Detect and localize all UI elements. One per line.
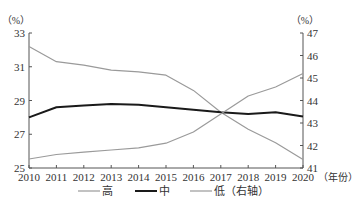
right-tick-label: 47 (307, 27, 319, 39)
x-tick-label: 2013 (100, 171, 123, 183)
legend-label: 高 (102, 184, 113, 197)
x-axis-label: （年份） (318, 171, 358, 183)
x-tick-label: 2014 (128, 171, 151, 183)
legend-label: 低（右轴） (214, 184, 269, 197)
axes (29, 33, 303, 168)
left-axis-unit: （%） (2, 15, 30, 26)
x-tick-label: 2016 (182, 171, 205, 183)
x-tick-label: 2020 (292, 171, 315, 183)
x-tick-label: 2015 (155, 171, 178, 183)
right-tick-label: 45 (307, 72, 319, 84)
x-tick-label: 2019 (265, 171, 288, 183)
right-tick-label: 43 (307, 117, 319, 129)
right-axis-unit: （%） (291, 15, 319, 26)
left-tick-label: 29 (14, 95, 26, 107)
left-tick-label: 33 (14, 27, 26, 39)
series-lines (29, 47, 303, 160)
left-tick-label: 27 (14, 128, 26, 140)
x-tick-label: 2011 (46, 171, 68, 183)
legend-label: 中 (159, 185, 170, 197)
axis-labels: 2527293133414243444546472010201120122013… (2, 15, 358, 183)
series-line (29, 74, 303, 160)
right-tick-label: 46 (307, 50, 319, 62)
line-chart: 2527293133414243444546472010201120122013… (0, 0, 363, 213)
x-tick-label: 2018 (237, 171, 260, 183)
x-tick-label: 2012 (73, 171, 95, 183)
x-tick-label: 2010 (18, 171, 41, 183)
series-line (29, 104, 303, 118)
legend: 高中低（右轴） (78, 184, 269, 197)
right-tick-label: 44 (307, 95, 319, 107)
right-tick-label: 42 (307, 140, 318, 152)
left-tick-label: 31 (14, 61, 25, 73)
x-tick-label: 2017 (210, 171, 233, 183)
